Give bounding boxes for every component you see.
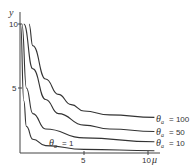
svg-text:= 100: = 100 bbox=[169, 115, 190, 124]
curves bbox=[21, 24, 155, 151]
svg-text:θa: θa bbox=[156, 113, 164, 125]
x-axis-label: μ bbox=[151, 154, 157, 165]
svg-text:= 50: = 50 bbox=[169, 128, 185, 137]
svg-text:= 1: = 1 bbox=[62, 139, 74, 148]
curve-series-3 bbox=[21, 24, 155, 151]
chart: y μ 10 5 5 10 θa = 100 θa = 50 θa = 10 θ… bbox=[0, 0, 190, 167]
legend-label-1: θa = 1 bbox=[49, 137, 74, 149]
svg-text:= 10: = 10 bbox=[169, 139, 185, 148]
curve-series-0 bbox=[29, 24, 154, 117]
y-tick-label: 10 bbox=[9, 20, 18, 29]
y-axis-label: y bbox=[8, 7, 14, 18]
legend-label-100: θa = 100 bbox=[156, 113, 190, 125]
y-tick-label: 5 bbox=[12, 84, 17, 93]
curve-series-2 bbox=[22, 24, 155, 142]
svg-text:θa: θa bbox=[49, 137, 57, 149]
x-tick-label: 10 bbox=[142, 156, 151, 165]
x-tick-label: 5 bbox=[81, 156, 86, 165]
svg-text:θa: θa bbox=[156, 137, 164, 149]
legend-label-10: θa = 10 bbox=[156, 137, 185, 149]
